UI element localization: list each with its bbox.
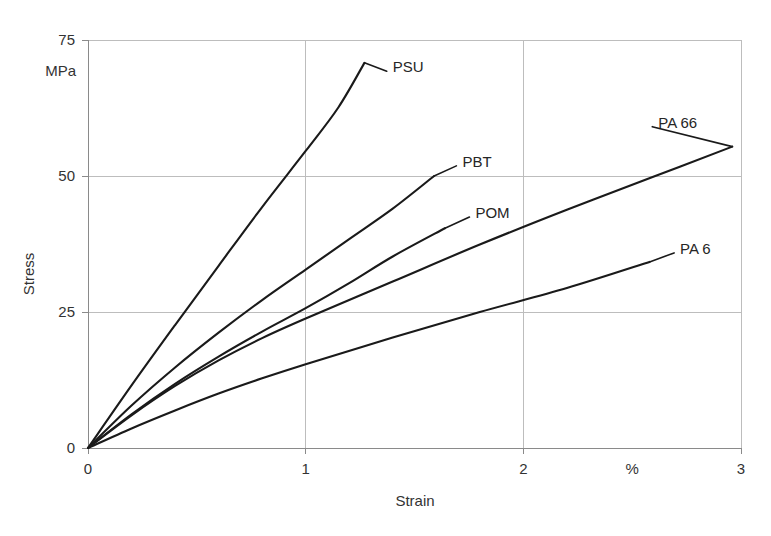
series-label-pa-6: PA 6 [680,240,711,257]
x-axis-title: Strain [395,492,434,509]
y-axis-title: Stress [20,253,37,296]
y-tick-label: 25 [58,303,75,320]
y-tick-label: 0 [67,439,75,456]
stress-strain-chart: PSUPBTPOMPA 66PA 6 0123 0255075 MPa % St… [0,0,771,536]
chart-background [0,0,771,536]
x-tick-label: 2 [519,460,527,477]
series-label-pbt: PBT [462,153,491,170]
x-tick-label: 0 [84,460,92,477]
chart-canvas: PSUPBTPOMPA 66PA 6 0123 0255075 MPa % St… [0,0,771,536]
x-tick-label: 3 [737,460,745,477]
x-axis-unit-label: % [625,460,638,477]
x-tick-label: 1 [301,460,309,477]
y-axis-unit-label: MPa [45,62,77,79]
series-label-pom: POM [475,204,509,221]
series-label-psu: PSU [393,58,424,75]
y-tick-label: 50 [58,167,75,184]
series-label-pa-66: PA 66 [658,114,697,131]
y-tick-label: 75 [58,31,75,48]
